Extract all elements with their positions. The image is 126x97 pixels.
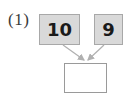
right-number-box: 9 [94, 14, 123, 45]
arrow-down-left-icon [88, 45, 104, 60]
arrow-down-right-icon [63, 45, 84, 60]
left-number-box: 10 [39, 14, 80, 45]
right-number: 9 [102, 19, 115, 40]
left-number: 10 [47, 19, 72, 40]
answer-box[interactable] [64, 63, 107, 93]
problem-label: (1) [8, 10, 29, 30]
